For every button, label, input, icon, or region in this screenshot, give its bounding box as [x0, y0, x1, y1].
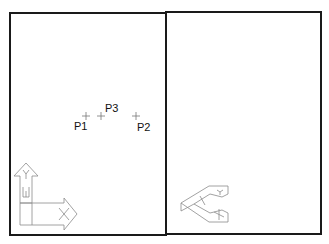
right-viewport-frame[interactable]: [166, 12, 321, 234]
point-label-p1: P1: [74, 121, 87, 132]
point-p3-marker: [97, 112, 105, 120]
ucs-icon-plan: [14, 163, 77, 230]
drawing-canvas: [0, 0, 329, 244]
point-label-p2: P2: [137, 122, 150, 133]
point-p1-marker: [82, 112, 90, 120]
point-label-p3: P3: [105, 103, 118, 114]
ucs-icon-isometric: [181, 186, 228, 222]
point-p2-marker: [132, 112, 140, 120]
